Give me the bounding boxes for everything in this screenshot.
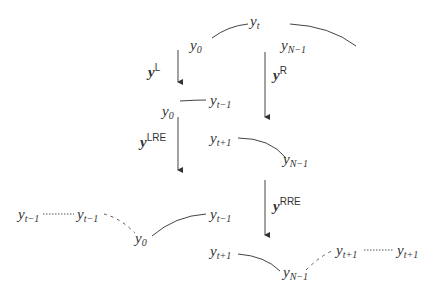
node-y-N-1-R: yN−1 [283,152,308,169]
node-y-t-1-L: yt−1 [210,93,231,110]
node-y-t-1-far2: yt−1 [77,207,98,224]
label-y-LRE: yLRE [140,133,166,150]
node-y-t+1-RRE: yt+1 [210,244,231,261]
label-y-RRE: yRRE [273,197,301,214]
dashed-lre [104,214,135,233]
node-y-t-top: yt [250,14,259,31]
edge-lre [152,214,206,236]
node-y-0-top: y0 [190,38,202,55]
node-y-N-1-top: yN−1 [281,38,306,55]
edge-r [238,138,286,158]
node-y-t+1-far2: yt+1 [397,243,418,260]
edge-rre [238,254,280,271]
edge-l [180,100,206,101]
label-y-L: yL [148,63,160,80]
node-y-0-LRE: y0 [135,231,147,248]
node-y-0-L: y0 [162,104,174,121]
dashed-rre [306,250,334,270]
label-y-R: yR [273,66,287,83]
node-y-t+1-far1: yt+1 [336,243,357,260]
node-y-t-1-LRE: yt−1 [210,207,231,224]
node-y-N-1-RRE: yN−1 [283,265,308,282]
node-y-t-1-far1: yt−1 [18,207,39,224]
node-y-t+1-R: yt+1 [210,131,231,148]
edge-top-left [212,24,248,38]
sequence-decomposition-diagram: yt y0 yN−1 yL yR yLRE yRRE y0 yt−1 yt+1 … [0,0,441,292]
